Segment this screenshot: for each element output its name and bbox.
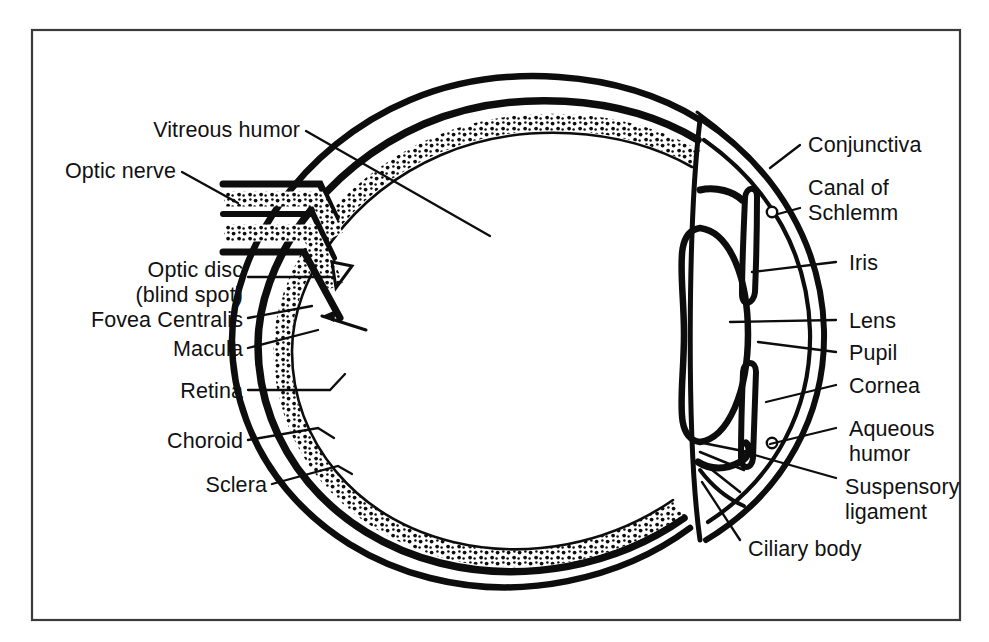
label-vitreous-humor: Vitreous humor [153,118,300,142]
label-aqueous-humor-line2: humor [849,442,910,466]
anterior-chamber-wall [690,120,700,540]
label-ciliary-body: Ciliary body [748,537,862,561]
leader-conjunctiva [770,145,800,168]
label-macula: Macula [173,337,243,361]
label-retina: Retina [180,379,243,403]
label-pupil: Pupil [849,341,897,365]
canal-of-schlemm-upper [767,207,777,217]
leader-iris [752,262,836,272]
label-optic-disc-line1: Optic disc [148,258,244,282]
label-canal-of-schlemm-line1: Canal of [808,176,889,200]
label-optic-disc-line2: (blind spot) [135,283,243,307]
label-cornea: Cornea [849,374,920,398]
label-aqueous-humor-line1: Aqueous [849,417,935,441]
label-iris: Iris [849,251,878,275]
label-canal-of-schlemm-line2: Schlemm [808,201,898,225]
label-lens: Lens [849,309,896,333]
eye-diagram-svg: Vitreous humor Optic nerve Optic disc (b… [0,0,989,642]
label-suspensory-ligament-line2: ligament [845,500,927,524]
label-sclera: Sclera [205,473,267,497]
label-choroid: Choroid [167,429,243,453]
ciliary-body-upper [700,189,742,200]
choroid-layer [258,101,698,572]
label-optic-nerve: Optic nerve [65,159,176,183]
fovea-arrow-head [322,310,336,322]
label-conjunctiva: Conjunctiva [808,133,921,157]
label-suspensory-ligament-line1: Suspensory [845,475,960,499]
eye-anatomy-figure: Vitreous humor Optic nerve Optic disc (b… [0,0,989,642]
label-fovea-centralis: Fovea Centralis [91,308,243,332]
retina-layer [282,122,696,558]
sclera-outer-line [232,76,700,587]
